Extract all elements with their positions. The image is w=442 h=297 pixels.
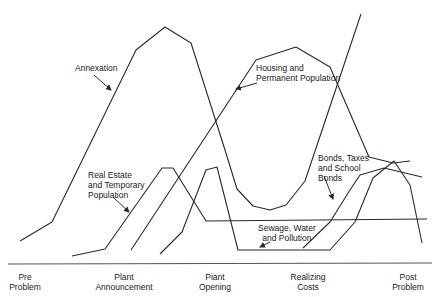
curve-label: Annexation xyxy=(75,63,118,73)
curve-label: Sewage, Water and Pollution xyxy=(258,223,316,243)
stage-label: Pre Problem xyxy=(9,272,41,292)
annexation-curve xyxy=(20,14,361,241)
stage-label: Piant Opening xyxy=(199,272,231,292)
stage-label: Post Problem xyxy=(392,272,424,292)
curve-label: Bonds, Taxes and School Bonds xyxy=(318,153,369,183)
stage-label: Plant Announcement xyxy=(95,272,152,292)
curve-label: Housing and Permanent Population xyxy=(256,63,340,83)
annexation-arrow-icon xyxy=(94,75,111,90)
timeline-axis xyxy=(8,263,432,264)
stage-label: Realizing Costs xyxy=(291,272,326,292)
diagram-canvas xyxy=(0,0,442,297)
curve-label: Real Estate and Temporary Population xyxy=(88,170,145,200)
community-impact-diagram: AnnexationHousing and Permanent Populati… xyxy=(0,0,442,297)
